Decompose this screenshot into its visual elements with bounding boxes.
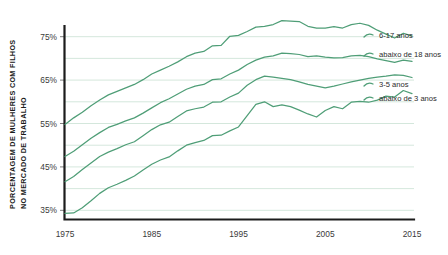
y-tick-label: 55%	[40, 119, 57, 129]
legend-label-2: 3-5 anos	[379, 80, 409, 89]
x-tick-label: 1985	[142, 229, 161, 239]
legend-swatch-2	[364, 83, 373, 86]
y-axis-title-line2: NO MERCADO DE TRABALHO	[19, 97, 28, 209]
line-chart: PORCENTAGEM DE MULHERES COM FILHOS NO ME…	[0, 0, 448, 255]
y-tick-label: 45%	[40, 162, 57, 172]
legend-label-1: abaixo de 18 anos	[379, 50, 441, 59]
y-tick-label: 65%	[40, 75, 57, 85]
y-axis-title: PORCENTAGEM DE MULHERES COM FILHOS NO ME…	[8, 40, 28, 210]
x-tick-label: 1975	[56, 229, 75, 239]
y-axis-ticks: 35%45%55%65%75%	[40, 32, 65, 216]
x-tick-label: 2005	[316, 229, 335, 239]
y-tick-label: 35%	[40, 205, 57, 215]
series-lines	[65, 21, 412, 214]
x-tick-label: 1995	[229, 229, 248, 239]
legend-label-3: abaixo de 3 anos	[379, 94, 437, 103]
y-axis-title-line1: PORCENTAGEM DE MULHERES COM FILHOS	[8, 40, 17, 210]
series-line-3	[65, 91, 412, 214]
y-tick-label: 75%	[40, 32, 57, 42]
series-line-1	[65, 53, 412, 156]
legend-label-0: 6-17 anos	[379, 31, 413, 40]
legend-swatch-3	[364, 97, 373, 100]
legend: 6-17 anosabaixo de 18 anos3-5 anosabaixo…	[364, 31, 441, 103]
chart-container: PORCENTAGEM DE MULHERES COM FILHOS NO ME…	[0, 0, 448, 255]
series-line-0	[65, 21, 412, 125]
x-tick-label: 2015	[403, 229, 422, 239]
x-axis-ticks: 19751985199520052015	[56, 229, 422, 239]
